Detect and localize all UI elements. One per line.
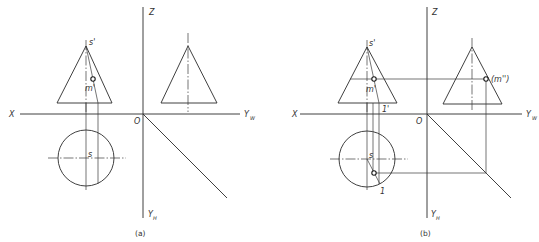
point-m-prime (91, 77, 95, 81)
label-z: Z (431, 8, 438, 17)
generatrix-front (367, 47, 379, 103)
caption-a: (a) (135, 229, 146, 238)
label-yh-sub: H (153, 215, 157, 221)
label-m-prime: m' (85, 84, 95, 93)
label-s: s (88, 150, 92, 159)
label-origin: O (416, 117, 422, 126)
label-x: X (291, 110, 298, 119)
label-yh-sub: H (436, 215, 440, 221)
label-origin: O (134, 117, 140, 126)
panel-b: X Z O Y W Y H s' m' (m'') 1' s 1 (b) (291, 7, 538, 238)
45-degree-line (143, 114, 227, 198)
label-s: s (369, 151, 373, 160)
panel-a: X Z O Y W Y H s' m' s (a) (8, 7, 256, 238)
label-m-prime: m' (366, 85, 376, 94)
label-yw-sub: W (250, 115, 256, 121)
label-1-prime: 1' (382, 105, 389, 114)
side-view-cone (161, 46, 217, 103)
point-m (372, 171, 376, 175)
point-m-double-prime (484, 77, 488, 81)
label-s-prime: s' (369, 39, 375, 48)
front-view-cone (57, 46, 112, 103)
45-degree-line (427, 114, 511, 198)
generatrix-front (86, 46, 98, 103)
label-1: 1 (380, 187, 385, 196)
label-x: X (8, 110, 15, 119)
label-z: Z (148, 8, 155, 17)
label-m-double-prime: (m'') (491, 75, 509, 84)
front-view-cone (338, 47, 397, 103)
point-m-prime (372, 77, 376, 81)
label-s-prime: s' (89, 38, 95, 47)
caption-b: (b) (420, 229, 431, 238)
label-yw-sub: W (532, 115, 538, 121)
cone-projection-diagram: X Z O Y W Y H s' m' s (a) (0, 0, 539, 242)
